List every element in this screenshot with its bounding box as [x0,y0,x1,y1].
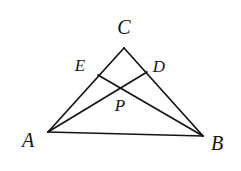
segments-group [48,48,203,136]
cevian-AD [48,72,147,132]
vertex-label-B: B [211,133,223,153]
vertex-label-D: D [153,58,165,75]
vertex-label-A: A [22,130,34,150]
vertex-label-E: E [75,57,85,74]
side-AB [48,132,203,136]
cevian-BE [98,75,203,136]
side-AC [48,48,124,132]
vertex-label-C: C [117,17,130,37]
geometry-figure: C E D P A B [0,0,241,171]
vertex-label-P: P [115,97,125,114]
